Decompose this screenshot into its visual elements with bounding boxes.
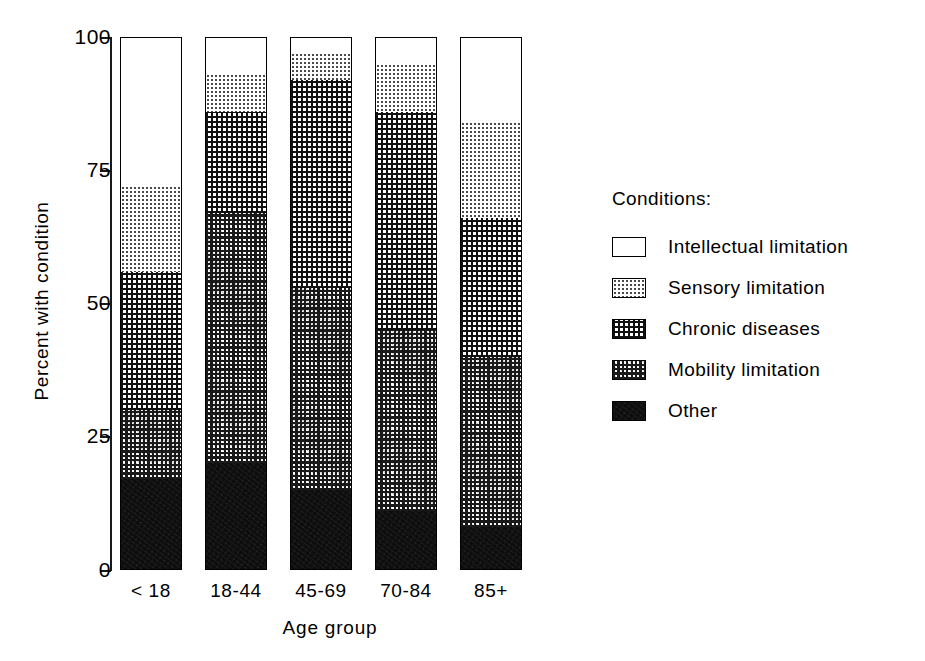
legend-label: Intellectual limitation xyxy=(668,236,848,258)
bar-segment-mobility xyxy=(375,330,437,511)
bar-segment-mobility xyxy=(205,213,267,464)
swatch-other-icon xyxy=(612,401,646,421)
swatch-chronic-icon xyxy=(612,319,646,339)
y-tick-label: 25 xyxy=(49,425,111,446)
bar-segment-other xyxy=(375,511,437,570)
legend-item-mobility-limitation: Mobility limitation xyxy=(612,349,912,390)
x-tick-label-85-plus: 85+ xyxy=(436,580,546,602)
bar-85-plus xyxy=(460,37,522,570)
bar-segment-sensory xyxy=(205,74,267,111)
bar-segment-sensory xyxy=(120,186,182,271)
bar-segment-chronic xyxy=(205,112,267,213)
bar-segment-chronic xyxy=(290,80,352,288)
bar-segment-intellectual xyxy=(290,37,352,53)
legend-label: Chronic diseases xyxy=(668,318,820,340)
bar-segment-intellectual xyxy=(375,37,437,64)
bar-18-44 xyxy=(205,37,267,570)
legend-item-sensory-limitation: Sensory limitation xyxy=(612,267,912,308)
legend-item-other: Other xyxy=(612,390,912,431)
bar-segment-chronic xyxy=(375,112,437,331)
x-axis-title: Age group xyxy=(110,617,550,639)
bar-segment-intellectual xyxy=(205,37,267,74)
bar-segment-sensory xyxy=(290,53,352,80)
bar-segment-mobility xyxy=(290,288,352,491)
stacked-bar-chart: Percent with condition 100 75 50 25 0 < … xyxy=(0,0,925,661)
bar-segment-other xyxy=(120,479,182,570)
bar-segment-sensory xyxy=(460,122,522,218)
legend-item-chronic-diseases: Chronic diseases xyxy=(612,308,912,349)
y-tick-label: 0 xyxy=(49,559,111,580)
legend-label: Sensory limitation xyxy=(668,277,825,299)
bar-segment-mobility xyxy=(120,410,182,479)
swatch-intellectual-icon xyxy=(612,237,646,257)
y-tick-label: 75 xyxy=(49,159,111,180)
swatch-sensory-icon xyxy=(612,278,646,298)
bar-70-84 xyxy=(375,37,437,570)
y-tick-label: 100 xyxy=(49,26,111,47)
bar-segment-chronic xyxy=(120,272,182,411)
bar-segment-intellectual xyxy=(120,37,182,186)
bar-under-18 xyxy=(120,37,182,570)
legend-label: Other xyxy=(668,400,718,422)
bar-segment-mobility xyxy=(460,357,522,528)
bar-segment-other xyxy=(290,490,352,570)
legend: Conditions: Intellectual limitation Sens… xyxy=(612,188,912,431)
bar-segment-intellectual xyxy=(460,37,522,122)
bar-segment-sensory xyxy=(375,64,437,112)
bar-segment-chronic xyxy=(460,218,522,357)
bar-segment-other xyxy=(205,463,267,570)
bar-45-69 xyxy=(290,37,352,570)
legend-label: Mobility limitation xyxy=(668,359,820,381)
legend-item-intellectual-limitation: Intellectual limitation xyxy=(612,226,912,267)
legend-title: Conditions: xyxy=(612,188,912,210)
y-tick-label: 50 xyxy=(49,292,111,313)
swatch-mobility-icon xyxy=(612,360,646,380)
bar-segment-other xyxy=(460,527,522,570)
